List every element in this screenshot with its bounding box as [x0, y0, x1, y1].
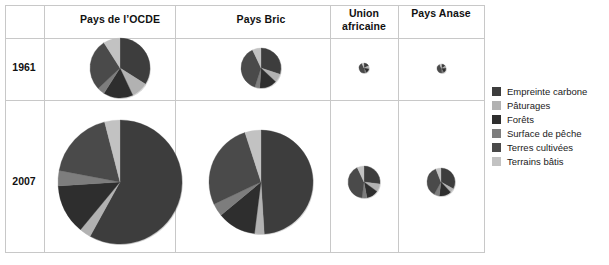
legend-item-label: Forêts [507, 114, 534, 125]
legend-swatch-icon [492, 129, 501, 138]
legend-item: Terrains bâtis [492, 154, 607, 168]
pie-chart-2007-4 [55, 117, 185, 247]
pie-matrix-figure: Pays de l’OCDE Pays Bric Union africaine… [0, 0, 609, 265]
column-header-pays-anase: Pays Anase [409, 7, 473, 20]
legend-swatch-icon [492, 101, 501, 110]
row-header-2007: 2007 [5, 175, 43, 187]
legend-item: Pâturages [492, 98, 607, 112]
pie-slice-empreinte-carbone [261, 130, 313, 234]
pie-chart-2007-6 [345, 163, 383, 201]
legend-item-label: Terres cultivées [507, 142, 573, 153]
legend-item: Terres cultivées [492, 140, 607, 154]
legend-swatch-icon [492, 157, 501, 166]
pie-chart-1961-1 [238, 45, 284, 91]
pie-chart-2007-7 [424, 165, 458, 199]
pie-chart-2007-5 [206, 127, 316, 237]
legend-item-label: Surface de pêche [507, 128, 581, 139]
row-header-1961: 1961 [5, 61, 43, 73]
legend-item: Empreinte carbone [492, 84, 607, 98]
row-divider [6, 100, 484, 101]
column-header-bric: Pays Bric [200, 13, 322, 26]
legend-item-label: Pâturages [507, 100, 550, 111]
legend-swatch-icon [492, 115, 501, 124]
row-divider [6, 38, 484, 39]
legend-swatch-icon [492, 87, 501, 96]
legend-swatch-icon [492, 143, 501, 152]
pie-slice-empreinte-carbone [364, 166, 380, 184]
column-header-ocde: Pays de l’OCDE [56, 13, 184, 26]
legend-item: Surface de pêche [492, 126, 607, 140]
legend-item: Forêts [492, 112, 607, 126]
pie-chart-1961-3 [434, 61, 449, 76]
pie-chart-1961-2 [356, 60, 372, 76]
column-divider [330, 6, 331, 252]
legend-item-label: Empreinte carbone [507, 86, 587, 97]
column-header-union-africaine: Union africaine [334, 7, 394, 32]
legend-item-label: Terrains bâtis [507, 156, 564, 167]
legend: Empreinte carbone Pâturages Forêts Surfa… [492, 84, 607, 168]
pie-chart-1961-0 [87, 35, 153, 101]
column-divider [44, 6, 45, 252]
column-divider [398, 6, 399, 252]
